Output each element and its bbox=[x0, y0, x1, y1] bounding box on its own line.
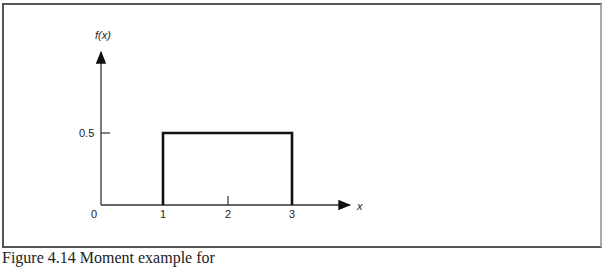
y-tick-label: 0.5 bbox=[79, 127, 94, 139]
x-tick-label-1: 1 bbox=[160, 208, 166, 220]
x-tick-label-3: 3 bbox=[289, 208, 295, 220]
figure-caption: Figure 4.14 Moment example for bbox=[2, 249, 215, 267]
y-axis-label: f(x) bbox=[95, 29, 111, 41]
density-curve bbox=[163, 133, 292, 205]
x-tick-label-2: 2 bbox=[225, 208, 231, 220]
x-axis-label: x bbox=[356, 200, 363, 212]
origin-label: 0 bbox=[91, 208, 97, 220]
